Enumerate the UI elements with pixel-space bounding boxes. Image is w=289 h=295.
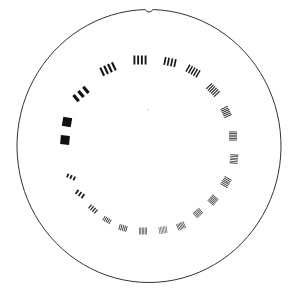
bar-group — [158, 226, 167, 234]
bar-group — [62, 117, 72, 127]
target-outline — [17, 10, 281, 283]
bar-group — [60, 135, 70, 145]
bar-group — [72, 86, 89, 102]
bar-group — [88, 204, 98, 214]
bar-group — [102, 216, 111, 224]
bar-group — [134, 56, 147, 65]
outline-circle — [17, 10, 281, 283]
bar-group — [207, 194, 218, 205]
bar-groups — [60, 56, 238, 235]
bar-group — [230, 154, 239, 164]
bar-group — [206, 83, 220, 97]
bar-group — [99, 62, 116, 76]
bar-group — [139, 228, 147, 235]
bar-group — [66, 173, 76, 180]
center-dot — [147, 109, 149, 111]
bar-group — [193, 208, 204, 219]
bar-group — [220, 176, 231, 188]
resolution-target — [0, 0, 289, 295]
bar-group — [163, 57, 176, 67]
bar-group — [118, 224, 127, 232]
bar-group — [75, 189, 85, 198]
bar-group — [176, 221, 186, 231]
bar-group — [220, 106, 231, 118]
bar-group — [185, 64, 200, 77]
bar-group — [229, 132, 237, 141]
